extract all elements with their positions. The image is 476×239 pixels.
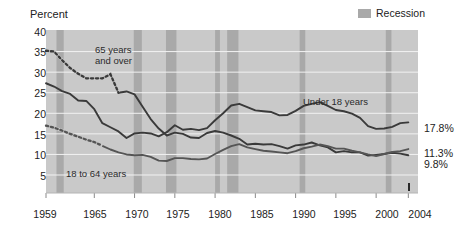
y-tick-20: 20	[24, 108, 46, 120]
y-tick-5: 5	[24, 170, 46, 182]
x-tick-1975: 1975	[158, 208, 198, 220]
end-label-under-18: 17.8%	[424, 122, 454, 134]
y-tick-40: 40	[24, 26, 46, 38]
recession-band-4	[227, 30, 238, 193]
poverty-rate-chart: Percent Recession 40 35 30 25 20 15 10 5…	[0, 0, 476, 239]
chart-plot-area	[0, 0, 476, 239]
x-tick-1990: 1990	[284, 208, 324, 220]
x-tick-1959: 1959	[25, 208, 65, 220]
axis-end-marker	[408, 183, 410, 191]
end-label-65-plus: 9.8%	[424, 158, 448, 170]
recession-band-1	[134, 30, 142, 193]
y-tick-15: 15	[24, 129, 46, 141]
y-tick-35: 35	[24, 46, 46, 58]
y-tick-10: 10	[24, 149, 46, 161]
annotation-65-years-line2: and over	[95, 55, 132, 66]
y-tick-25: 25	[24, 87, 46, 99]
recession-band-5	[300, 30, 306, 193]
recession-band-6	[386, 30, 392, 193]
recession-band-3	[215, 30, 220, 193]
x-tick-2004: 2004	[400, 208, 440, 220]
y-tick-30: 30	[24, 67, 46, 79]
x-tick-1985: 1985	[242, 208, 282, 220]
annotation-under-18: Under 18 years	[303, 96, 368, 107]
x-tick-1980: 1980	[200, 208, 240, 220]
recession-band-2	[166, 30, 176, 193]
x-tick-1965: 1965	[75, 208, 115, 220]
x-tick-1995: 1995	[325, 208, 365, 220]
annotation-18-to-64: 18 to 64 years	[66, 168, 126, 179]
annotation-65-years-line1: 65 years	[95, 44, 131, 55]
x-tick-1970: 1970	[117, 208, 157, 220]
